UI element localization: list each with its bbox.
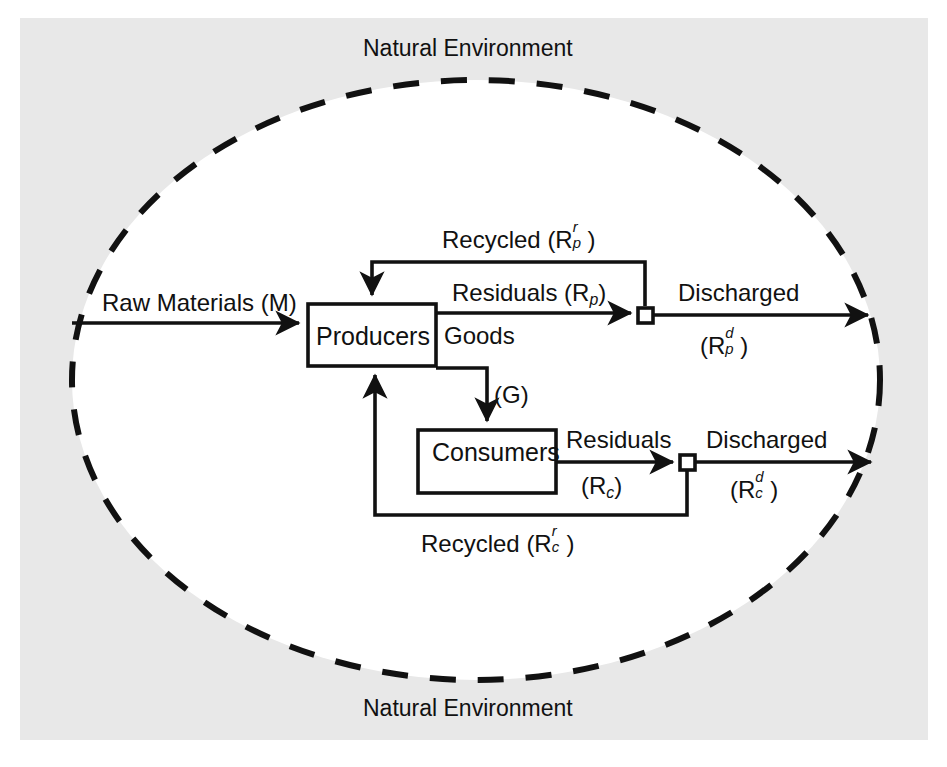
label-residuals-producers-suffix: )	[598, 279, 606, 306]
label-recycled-producers-prefix: Recycled (R	[442, 226, 573, 253]
figure-canvas: Natural Environment Natural Environment …	[0, 0, 947, 767]
label-recycled-consumers-suffix: )	[567, 530, 575, 557]
label-recycled-producers-script: rp	[573, 224, 588, 248]
junction-square-producers	[638, 308, 653, 323]
label-discharged-consumers-symbol: (Rdc)	[730, 474, 778, 502]
diagram-vector-layer	[0, 0, 947, 767]
label-goods-symbol: (G)	[494, 383, 529, 407]
label-recycled-producers: Recycled (Rrp)	[442, 224, 596, 252]
label-residuals-consumers: Residuals	[566, 428, 671, 452]
label-recycled-consumers: Recycled (Rrc)	[421, 528, 575, 556]
label-discharged-producers-suffix: )	[740, 332, 748, 359]
label-node-producers: Producers	[316, 324, 430, 349]
label-residuals-consumers-symbol: (Rc)	[581, 474, 622, 501]
label-discharged-producers-script: dp	[725, 330, 740, 354]
label-residuals-consumers-prefix: (R	[581, 472, 606, 499]
label-discharged-consumers-script: dc	[755, 474, 770, 498]
label-discharged-consumers: Discharged	[706, 428, 827, 452]
label-residuals-consumers-suffix: )	[614, 472, 622, 499]
label-discharged-consumers-suffix: )	[770, 476, 778, 503]
label-residuals-producers: Residuals (Rp)	[452, 281, 606, 308]
label-discharged-producers-prefix: (R	[700, 332, 725, 359]
label-raw-materials: Raw Materials (M)	[102, 291, 297, 315]
label-residuals-producers-prefix: Residuals (R	[452, 279, 589, 306]
label-discharged-consumers-prefix: (R	[730, 476, 755, 503]
label-node-consumers: Consumers	[432, 440, 560, 465]
label-recycled-consumers-prefix: Recycled (R	[421, 530, 552, 557]
junction-square-consumers	[680, 455, 695, 470]
label-goods: Goods	[444, 324, 515, 348]
label-residuals-producers-sub: p	[589, 291, 598, 308]
label-discharged-producers-symbol: (Rdp)	[700, 330, 748, 358]
natural-environment-interior	[72, 80, 880, 680]
label-discharged-producers: Discharged	[678, 281, 799, 305]
label-recycled-producers-suffix: )	[588, 226, 596, 253]
label-recycled-consumers-script: rc	[552, 528, 567, 552]
label-natural-environment-top: Natural Environment	[363, 37, 573, 60]
label-natural-environment-bottom: Natural Environment	[363, 697, 573, 720]
